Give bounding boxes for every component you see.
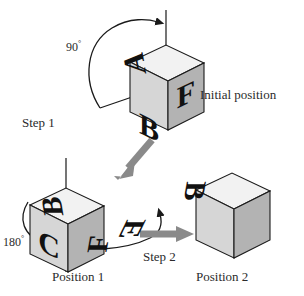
- cube-position-2-letter-left: A: [301, 221, 304, 243]
- angle-90-degree-symbol: °: [78, 39, 81, 48]
- step-1-transition-arrow: [114, 140, 152, 180]
- cube-initial: A B F: [116, 45, 204, 149]
- cube-initial-letter-top: A: [116, 52, 154, 74]
- label-initial-position: Initial position: [200, 88, 276, 101]
- cube-position-1-letter-top: B: [34, 196, 69, 215]
- cube-position-2: B A E: [111, 173, 304, 258]
- label-position-2: Position 2: [196, 270, 248, 283]
- label-step-1: Step 1: [22, 116, 55, 129]
- label-position-1: Position 1: [52, 270, 104, 283]
- label-angle-180-deg: 180°: [3, 235, 24, 248]
- cube-position-1-letter-right: F: [80, 235, 115, 253]
- label-step-2: Step 2: [143, 250, 176, 263]
- cube-rotation-diagram: A B F B C F: [0, 0, 304, 296]
- cube-position-2-letter-top: B: [178, 181, 213, 200]
- angle-90-value: 90: [66, 40, 78, 54]
- angle-180-degree-symbol: °: [21, 234, 24, 243]
- label-angle-90-deg: 90°: [66, 40, 81, 53]
- angle-180-value: 180: [3, 235, 21, 249]
- cube-position-1: B C F: [30, 188, 115, 272]
